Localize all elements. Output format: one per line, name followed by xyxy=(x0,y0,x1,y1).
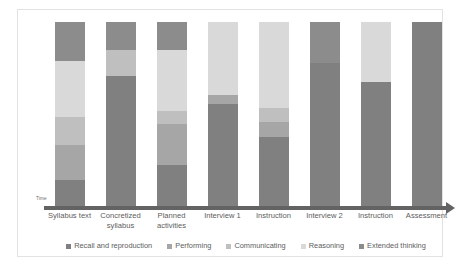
bar-column xyxy=(157,22,187,208)
bar-segment xyxy=(361,82,391,208)
stacked-bars-group xyxy=(44,22,452,208)
bar-segment xyxy=(106,50,136,76)
legend-item[interactable]: Extended thinking xyxy=(359,242,426,250)
legend-swatch-icon xyxy=(167,244,172,249)
bar-column xyxy=(208,22,238,208)
bar-segment xyxy=(106,76,136,208)
legend-item[interactable]: Recall and reproduction xyxy=(66,242,152,250)
bar-column xyxy=(259,22,289,208)
plot-area xyxy=(44,22,452,208)
legend-label: Recall and reproduction xyxy=(74,242,152,250)
chart-legend: Recall and reproductionPerformingCommuni… xyxy=(44,242,448,250)
bar-column xyxy=(55,22,85,208)
bar-segment xyxy=(55,22,85,61)
category-label: Assessment xyxy=(394,211,459,221)
bar-segment xyxy=(208,95,238,104)
bar-segment xyxy=(157,111,187,124)
legend-label: Performing xyxy=(175,242,211,250)
legend-swatch-icon xyxy=(66,244,71,249)
bar-segment xyxy=(259,137,289,208)
category-label-line: Assessment xyxy=(394,211,459,221)
legend-label: Extended thinking xyxy=(367,242,426,250)
bar-segment xyxy=(106,22,136,50)
bar-segment xyxy=(412,22,442,208)
chart-frame: Time Syllabus textConcretizedsyllabusPla… xyxy=(17,9,443,257)
bar-segment xyxy=(310,63,340,208)
bar-segment xyxy=(259,122,289,137)
legend-item[interactable]: Reasoning xyxy=(301,242,344,250)
legend-label: Communicating xyxy=(234,242,285,250)
category-label-line: activities xyxy=(139,221,205,231)
bar-segment xyxy=(208,22,238,95)
bar-segment xyxy=(361,22,391,82)
legend-swatch-icon xyxy=(359,244,364,249)
bar-column xyxy=(106,22,136,208)
bar-segment xyxy=(259,108,289,123)
bar-column xyxy=(412,22,442,208)
bar-segment xyxy=(55,145,85,180)
chart-figure: Time Syllabus textConcretizedsyllabusPla… xyxy=(0,0,459,270)
bar-segment xyxy=(55,117,85,145)
category-labels-group: Syllabus textConcretizedsyllabusPlanneda… xyxy=(44,211,452,237)
legend-swatch-icon xyxy=(301,244,306,249)
bar-segment xyxy=(55,180,85,208)
x-axis-time-label: Time xyxy=(36,196,47,201)
bar-segment xyxy=(310,22,340,63)
bar-segment xyxy=(208,104,238,208)
bar-segment xyxy=(157,22,187,50)
bar-segment xyxy=(157,50,187,111)
legend-item[interactable]: Performing xyxy=(167,242,211,250)
legend-label: Reasoning xyxy=(309,242,344,250)
bar-segment xyxy=(157,165,187,208)
bar-column xyxy=(310,22,340,208)
bar-segment xyxy=(259,22,289,108)
x-axis-line xyxy=(44,206,448,210)
bar-segment xyxy=(55,61,85,117)
legend-item[interactable]: Communicating xyxy=(226,242,285,250)
bar-column xyxy=(361,22,391,208)
bar-segment xyxy=(157,124,187,165)
legend-swatch-icon xyxy=(226,244,231,249)
